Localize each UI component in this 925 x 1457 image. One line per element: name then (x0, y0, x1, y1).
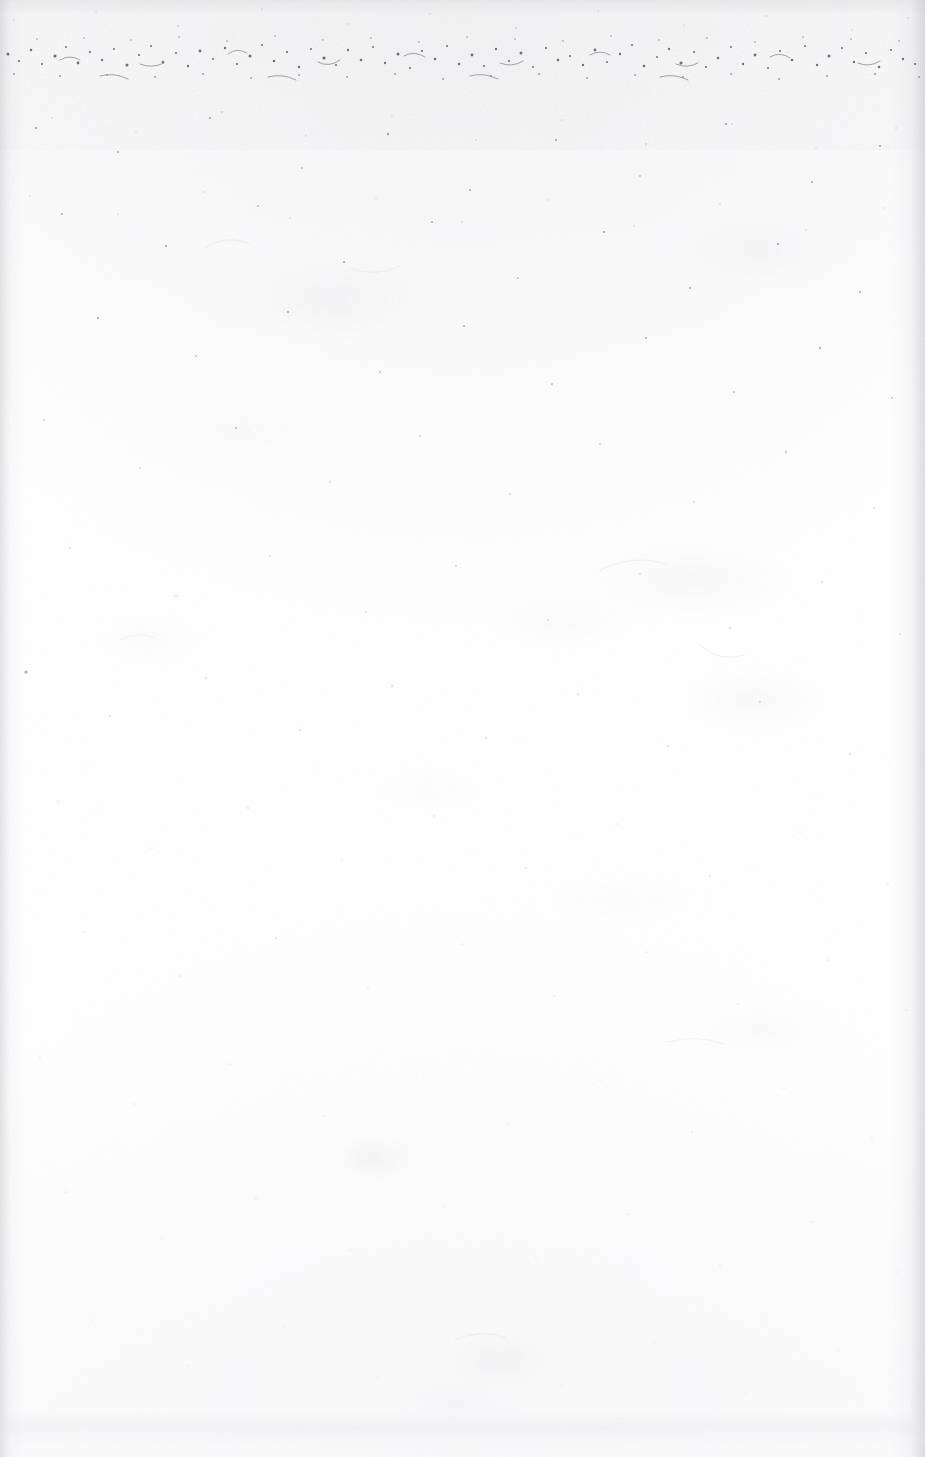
right-edge-scan-shadow (891, 0, 925, 1457)
paper-background (0, 0, 925, 1457)
scanned-page (0, 0, 925, 1457)
top-edge-scan-shadow (0, 0, 925, 14)
left-edge-scan-shadow (0, 0, 26, 1457)
